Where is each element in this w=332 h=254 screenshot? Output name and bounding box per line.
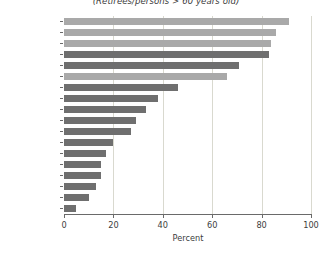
x-axis-tick [262, 214, 263, 218]
gridline [311, 16, 312, 214]
bar [64, 139, 113, 146]
plot-area: GermanyEnglandUnited StatesUruguayArgent… [64, 16, 311, 214]
y-axis-tick [60, 131, 63, 132]
bar-row: Nicaragua [64, 148, 311, 159]
bar [64, 106, 146, 113]
y-axis-tick [60, 43, 63, 44]
x-axis-tick-label: 60 [192, 220, 232, 230]
bar-row: Germany [64, 16, 311, 27]
bar-row: Bolivia [64, 159, 311, 170]
y-axis-tick [60, 98, 63, 99]
x-axis-tick [64, 214, 65, 218]
y-axis-tick [60, 197, 63, 198]
bar-row: Colombia [64, 192, 311, 203]
bar-row: Uruguay [64, 49, 311, 60]
x-axis-line [64, 214, 312, 215]
x-axis-tick-label: 80 [242, 220, 282, 230]
x-axis-tick-label: 20 [93, 220, 133, 230]
bar [64, 172, 101, 179]
y-axis-tick [60, 120, 63, 121]
bar-rows: GermanyEnglandUnited StatesUruguayArgent… [64, 16, 311, 214]
bar-chart: (Retirees/persons > 60 years old) German… [0, 0, 332, 254]
y-axis-tick [60, 21, 63, 22]
x-axis-tick [163, 214, 164, 218]
y-axis-tick [60, 76, 63, 77]
bar-row: Ecuador [64, 137, 311, 148]
bar [64, 40, 271, 47]
bar-row: United States [64, 38, 311, 49]
bar-row: Jamaica [64, 126, 311, 137]
x-axis-tick-label: 40 [143, 220, 183, 230]
x-axis-tick-label: 0 [44, 220, 84, 230]
y-axis-tick [60, 65, 63, 66]
bar-row: Peru [64, 170, 311, 181]
bar [64, 18, 289, 25]
y-axis-tick [60, 186, 63, 187]
bar [64, 84, 178, 91]
y-axis-tick [60, 164, 63, 165]
x-axis-title: Percent [64, 233, 312, 243]
bar [64, 205, 76, 212]
y-axis-tick [60, 175, 63, 176]
bar-row: Argentina [64, 60, 311, 71]
bar [64, 51, 269, 58]
y-axis-tick [60, 153, 63, 154]
bar [64, 29, 276, 36]
bar [64, 128, 131, 135]
bar [64, 183, 96, 190]
bar [64, 73, 227, 80]
bar [64, 150, 106, 157]
chart-title: (Retirees/persons > 60 years old) [0, 0, 332, 6]
x-axis-tick [113, 214, 114, 218]
bar [64, 161, 101, 168]
bar-row: Costa Rica [64, 93, 311, 104]
bar-row: Panama [64, 104, 311, 115]
bar-row: Guatemala [64, 181, 311, 192]
bar [64, 62, 239, 69]
x-axis-tick [212, 214, 213, 218]
y-axis-tick [60, 32, 63, 33]
bar [64, 194, 89, 201]
x-axis-tick-label: 100 [291, 220, 331, 230]
bar-row: Venezuela [64, 115, 311, 126]
bar-row: England [64, 27, 311, 38]
y-axis-tick [60, 208, 63, 209]
bar-row: Brazil [64, 82, 311, 93]
bar [64, 95, 158, 102]
bar [64, 117, 136, 124]
bar-row: El Salvador [64, 203, 311, 214]
y-axis-tick [60, 109, 63, 110]
y-axis-tick [60, 54, 63, 55]
x-axis-tick [311, 214, 312, 218]
y-axis-tick [60, 87, 63, 88]
y-axis-tick [60, 142, 63, 143]
bar-row: Japan [64, 71, 311, 82]
